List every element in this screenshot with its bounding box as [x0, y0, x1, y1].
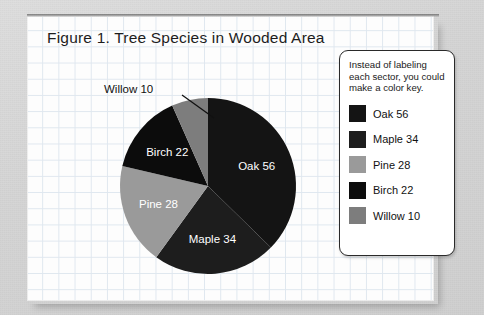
legend-label: Willow 10 [373, 210, 420, 222]
legend-swatch-oak [349, 105, 366, 122]
legend-row: Willow 10 [349, 203, 445, 229]
legend-swatch-maple [349, 131, 366, 148]
legend-label: Maple 34 [373, 133, 418, 145]
legend-row: Pine 28 [349, 152, 445, 178]
legend-label: Birch 22 [373, 184, 413, 196]
legend-swatch-birch [349, 182, 366, 199]
legend-note: Instead of labeling each sector, you cou… [349, 59, 445, 94]
pie-label-maple: Maple 34 [189, 233, 237, 245]
pie-label-oak: Oak 56 [238, 160, 275, 172]
willow-callout-label: Willow 10 [104, 83, 153, 95]
legend-row: Oak 56 [349, 101, 445, 127]
pie-label-pine: Pine 28 [139, 198, 178, 210]
legend-swatch-pine [349, 156, 366, 173]
legend-swatch-willow [349, 207, 366, 224]
legend-row: Maple 34 [349, 126, 445, 152]
legend-label: Pine 28 [373, 159, 410, 171]
legend-row: Birch 22 [349, 177, 445, 203]
color-key-legend: Instead of labeling each sector, you cou… [339, 50, 455, 256]
pie-label-birch: Birch 22 [146, 146, 188, 158]
legend-rows: Oak 56Maple 34Pine 28Birch 22Willow 10 [349, 101, 445, 229]
pie-sectors [120, 98, 296, 274]
legend-label: Oak 56 [373, 108, 408, 120]
